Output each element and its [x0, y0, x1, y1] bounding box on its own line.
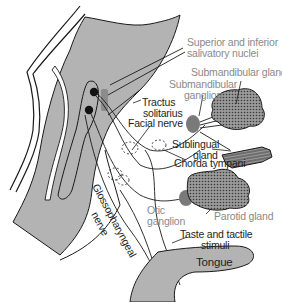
label-otic-ganglion-line2: ganglion [147, 216, 185, 227]
label-tongue: Tongue [196, 257, 233, 268]
label-submandibular-ganglion-line2: ganglion [168, 90, 238, 101]
tongue [130, 246, 254, 302]
tractus-solitarius-nucleus [101, 89, 108, 111]
label-parotid-gland: Parotid gland [214, 211, 273, 222]
label-chorda-tympani: Chorda tympani [174, 158, 245, 169]
parotid-gland [187, 169, 249, 210]
label-taste-line2: stimuli [201, 240, 229, 251]
dashed-junctions [108, 140, 166, 185]
salivary-reflex-diagram: Superior and inferior salivatory nuclei … [0, 0, 282, 302]
label-submandibular-gland: Submandibular gland [191, 67, 282, 78]
label-facial-nerve: Facial nerve [128, 118, 183, 129]
submandibular-ganglion [186, 115, 200, 133]
label-salivatory-nuclei-line2: salivatory nuclei [187, 48, 258, 59]
